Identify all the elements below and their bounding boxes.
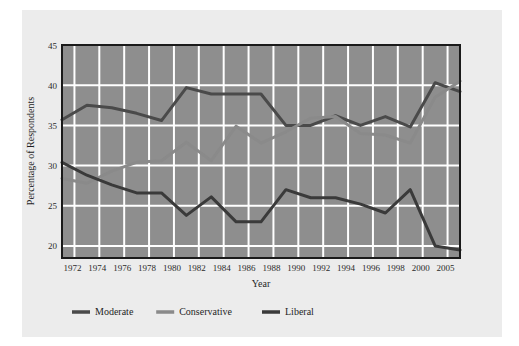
- y-axis-tick-labels: 202530354045: [48, 41, 58, 252]
- x-tick-label: 1986: [238, 263, 257, 273]
- legend-label-moderate: Moderate: [95, 306, 134, 317]
- y-tick-label: 20: [48, 241, 58, 251]
- y-tick-label: 35: [48, 121, 58, 131]
- x-tick-label: 1984: [213, 263, 232, 273]
- plot-background: [62, 45, 460, 258]
- y-axis-title: Percentage of Respondents: [25, 97, 36, 205]
- x-tick-label: 1980: [163, 263, 182, 273]
- x-tick-label: 1998: [387, 263, 406, 273]
- line-chart: 202530354045 197219741976197819801982198…: [0, 0, 519, 346]
- x-tick-label: 1974: [88, 263, 107, 273]
- chart-page: 202530354045 197219741976197819801982198…: [0, 0, 519, 346]
- x-tick-label: 2000: [412, 263, 431, 273]
- legend-label-liberal: Liberal: [285, 306, 314, 317]
- x-tick-label: 2005: [437, 263, 456, 273]
- chart-legend: ModerateConservativeLiberal: [72, 306, 314, 317]
- x-axis-title: Year: [252, 278, 271, 289]
- y-tick-label: 30: [48, 161, 58, 171]
- x-tick-label: 1996: [362, 263, 381, 273]
- x-tick-label: 1976: [113, 263, 132, 273]
- x-tick-label: 1982: [188, 263, 206, 273]
- x-tick-label: 1988: [262, 263, 281, 273]
- y-tick-label: 45: [48, 41, 58, 51]
- x-tick-label: 1992: [312, 263, 330, 273]
- x-tick-label: 1994: [337, 263, 356, 273]
- x-axis-tick-labels: 1972197419761978198019821984198619881990…: [63, 263, 455, 273]
- y-tick-label: 40: [48, 81, 58, 91]
- x-tick-label: 1972: [63, 263, 81, 273]
- legend-label-conservative: Conservative: [179, 306, 232, 317]
- x-tick-label: 1990: [287, 263, 306, 273]
- x-tick-label: 1978: [138, 263, 157, 273]
- y-tick-label: 25: [48, 201, 58, 211]
